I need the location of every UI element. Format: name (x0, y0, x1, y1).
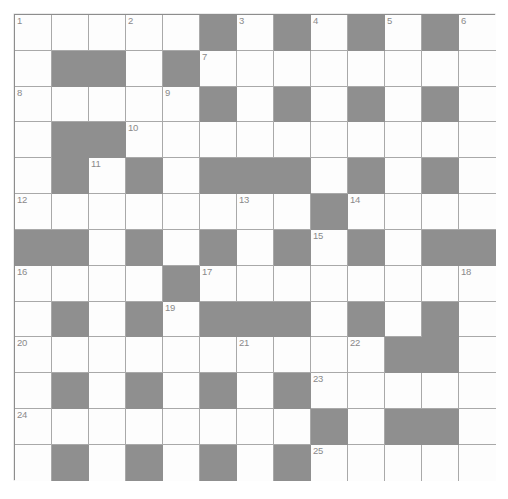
letter-square[interactable] (459, 409, 496, 445)
letter-square[interactable] (52, 409, 89, 445)
letter-square[interactable] (15, 373, 52, 409)
letter-square[interactable] (311, 51, 348, 87)
letter-square[interactable]: 22 (348, 337, 385, 373)
letter-square[interactable] (385, 266, 422, 302)
letter-square[interactable]: 11 (89, 158, 126, 194)
letter-square[interactable] (348, 122, 385, 158)
letter-square[interactable] (459, 51, 496, 87)
letter-square[interactable] (163, 122, 200, 158)
letter-square[interactable] (89, 266, 126, 302)
letter-square[interactable] (459, 337, 496, 373)
letter-square[interactable] (311, 122, 348, 158)
letter-square[interactable] (459, 373, 496, 409)
letter-square[interactable] (89, 194, 126, 230)
letter-square[interactable] (89, 15, 126, 51)
letter-square[interactable] (52, 194, 89, 230)
letter-square[interactable] (89, 409, 126, 445)
letter-square[interactable] (348, 409, 385, 445)
letter-square[interactable] (163, 373, 200, 409)
letter-square[interactable] (52, 266, 89, 302)
letter-square[interactable] (459, 445, 496, 481)
letter-square[interactable] (459, 302, 496, 338)
letter-square[interactable]: 14 (348, 194, 385, 230)
letter-square[interactable] (15, 445, 52, 481)
letter-square[interactable] (200, 409, 237, 445)
letter-square[interactable]: 8 (15, 87, 52, 123)
letter-square[interactable] (459, 158, 496, 194)
letter-square[interactable] (237, 230, 274, 266)
letter-square[interactable] (311, 337, 348, 373)
letter-square[interactable] (422, 373, 459, 409)
letter-square[interactable] (385, 51, 422, 87)
letter-square[interactable] (311, 302, 348, 338)
letter-square[interactable] (311, 87, 348, 123)
letter-square[interactable]: 24 (15, 409, 52, 445)
letter-square[interactable] (422, 445, 459, 481)
letter-square[interactable]: 16 (15, 266, 52, 302)
letter-square[interactable] (126, 87, 163, 123)
letter-square[interactable] (459, 122, 496, 158)
letter-square[interactable] (89, 230, 126, 266)
letter-square[interactable]: 23 (311, 373, 348, 409)
letter-square[interactable] (163, 337, 200, 373)
letter-square[interactable]: 19 (163, 302, 200, 338)
letter-square[interactable] (52, 87, 89, 123)
letter-square[interactable]: 21 (237, 337, 274, 373)
letter-square[interactable] (163, 15, 200, 51)
letter-square[interactable] (200, 337, 237, 373)
letter-square[interactable] (163, 409, 200, 445)
letter-square[interactable] (385, 445, 422, 481)
letter-square[interactable] (52, 337, 89, 373)
letter-square[interactable] (422, 51, 459, 87)
letter-square[interactable] (274, 51, 311, 87)
letter-square[interactable] (385, 87, 422, 123)
letter-square[interactable] (311, 266, 348, 302)
letter-square[interactable] (237, 122, 274, 158)
letter-square[interactable]: 5 (385, 15, 422, 51)
letter-square[interactable]: 3 (237, 15, 274, 51)
letter-square[interactable] (385, 230, 422, 266)
letter-square[interactable] (237, 87, 274, 123)
letter-square[interactable] (237, 409, 274, 445)
letter-square[interactable] (163, 158, 200, 194)
letter-square[interactable] (348, 373, 385, 409)
letter-square[interactable] (200, 122, 237, 158)
letter-square[interactable] (163, 445, 200, 481)
letter-square[interactable] (385, 373, 422, 409)
letter-square[interactable]: 1 (15, 15, 52, 51)
letter-square[interactable] (274, 122, 311, 158)
letter-square[interactable] (422, 266, 459, 302)
letter-square[interactable] (163, 194, 200, 230)
letter-square[interactable] (385, 122, 422, 158)
letter-square[interactable] (89, 445, 126, 481)
letter-square[interactable] (385, 302, 422, 338)
letter-square[interactable] (126, 337, 163, 373)
letter-square[interactable] (15, 51, 52, 87)
letter-square[interactable] (200, 194, 237, 230)
crossword-grid[interactable]: 1234567891011121314151617181920212223242… (14, 14, 495, 480)
letter-square[interactable]: 18 (459, 266, 496, 302)
letter-square[interactable] (126, 409, 163, 445)
letter-square[interactable]: 20 (15, 337, 52, 373)
letter-square[interactable] (385, 158, 422, 194)
letter-square[interactable] (15, 302, 52, 338)
letter-square[interactable] (15, 122, 52, 158)
letter-square[interactable] (348, 266, 385, 302)
letter-square[interactable] (126, 266, 163, 302)
letter-square[interactable]: 25 (311, 445, 348, 481)
letter-square[interactable] (237, 445, 274, 481)
letter-square[interactable] (89, 87, 126, 123)
letter-square[interactable] (274, 409, 311, 445)
letter-square[interactable] (459, 87, 496, 123)
letter-square[interactable]: 4 (311, 15, 348, 51)
letter-square[interactable]: 9 (163, 87, 200, 123)
letter-square[interactable] (459, 194, 496, 230)
letter-square[interactable] (422, 194, 459, 230)
letter-square[interactable] (311, 158, 348, 194)
letter-square[interactable] (274, 266, 311, 302)
letter-square[interactable]: 10 (126, 122, 163, 158)
letter-square[interactable]: 13 (237, 194, 274, 230)
letter-square[interactable] (237, 266, 274, 302)
letter-square[interactable]: 12 (15, 194, 52, 230)
letter-square[interactable] (385, 194, 422, 230)
